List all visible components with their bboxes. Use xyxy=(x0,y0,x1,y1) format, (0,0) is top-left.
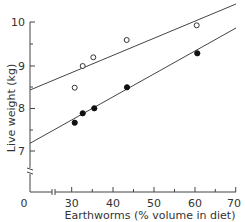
y-tick-9: 9 xyxy=(18,60,25,73)
data-point xyxy=(80,111,85,116)
y-tick-7: 7 xyxy=(18,145,25,158)
x-tick-0: 0 xyxy=(21,197,28,210)
filled-circle-series xyxy=(72,51,200,126)
data-point xyxy=(195,51,200,56)
y-axis xyxy=(27,22,35,192)
data-point xyxy=(194,23,199,28)
data-point xyxy=(80,64,85,69)
y-axis-title: Live weight (kg) xyxy=(5,64,18,152)
data-point xyxy=(72,85,77,90)
data-point xyxy=(124,85,129,90)
x-axis-title: Earthworms (% volume in diet) xyxy=(65,209,236,222)
y-tick-10: 10 xyxy=(11,16,25,29)
x-axis xyxy=(30,187,236,195)
data-point xyxy=(92,106,97,111)
open-circle-series xyxy=(72,23,199,90)
upper-fit-line xyxy=(30,4,236,90)
data-point xyxy=(124,38,129,43)
y-tick-8: 8 xyxy=(18,102,25,115)
data-point xyxy=(91,55,96,60)
data-point xyxy=(72,120,77,125)
scatter-chart: 10 9 8 7 0 30 40 50 60 70 Earthworms (% … xyxy=(0,0,245,222)
lower-fit-line xyxy=(30,28,236,143)
